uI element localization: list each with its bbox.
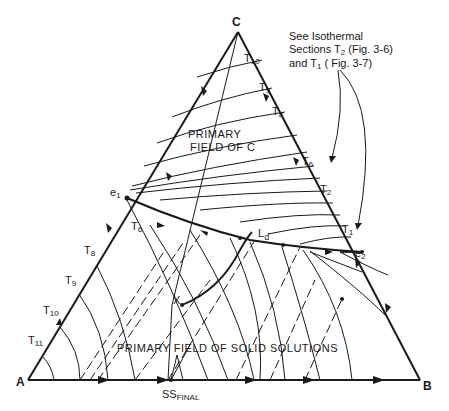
edge-ac <box>28 32 238 380</box>
isothermal-sections-note: See Isothermal Sections T2 (Fig. 3-6) an… <box>289 30 393 71</box>
primary-field-c-line2: FIELD OF C <box>190 141 256 153</box>
svg-text:T9: T9 <box>65 274 77 288</box>
tie-lines <box>80 235 342 380</box>
vertex-a-label: A <box>16 375 25 389</box>
svg-text:T2: T2 <box>320 183 332 197</box>
ternary-phase-diagram: C A B e1 e2 PRIMARY FIELD OF C PRIMARY F… <box>0 0 449 411</box>
note-leaders <box>329 70 366 230</box>
isotherm-labels-cb: T10 T9 T8 T6 T2 T1 <box>244 52 354 237</box>
eutectic-e1-label: e1 <box>110 186 121 200</box>
svg-text:Sections T2 (Fig. 3-6): Sections T2 (Fig. 3-6) <box>289 43 393 57</box>
vertex-c-label: C <box>232 15 241 29</box>
primary-field-ss-label: PRIMARY FIELD OF SOLID SOLUTIONS <box>117 342 338 354</box>
isotherm-labels-ac: T8 T9 T10 T11 <box>28 244 96 348</box>
ss-final-label: SSFINAL <box>162 388 200 402</box>
svg-text:T10: T10 <box>43 304 59 318</box>
primary-field-c-line1: PRIMARY <box>188 128 242 140</box>
eutectic-e2-label: e2 <box>355 247 366 261</box>
point-ld-label: Ld <box>258 227 269 242</box>
point-x-label: X <box>173 294 181 306</box>
vertex-b-label: B <box>423 379 432 393</box>
svg-text:T10: T10 <box>244 52 260 66</box>
svg-text:and T1 ( Fig. 3-7): and T1 ( Fig. 3-7) <box>289 57 372 71</box>
svg-text:T9: T9 <box>259 81 271 95</box>
svg-text:T11: T11 <box>28 334 44 348</box>
svg-text:T8: T8 <box>84 244 96 258</box>
svg-text:See Isothermal: See Isothermal <box>289 30 363 42</box>
svg-text:T6: T6 <box>302 155 314 169</box>
svg-text:T8: T8 <box>272 105 284 119</box>
interior-isotherm-label: T6 <box>131 220 143 234</box>
svg-text:T1: T1 <box>342 223 354 237</box>
